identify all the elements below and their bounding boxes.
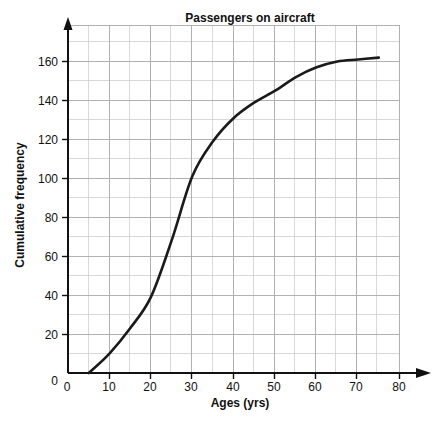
x-axis-label: Ages (yrs) [211,396,270,410]
x-axis-tick-labels: 0 10 20 30 40 50 60 70 80 [64,380,406,394]
chart-container: Passengers on aircraft Ages (yrs) Cumula… [0,0,438,429]
x-tick-label: 30 [184,380,198,394]
y-axis-arrow-icon [64,17,73,30]
grid-minor-lines [68,25,400,373]
y-tick-label: 120 [38,133,58,147]
cumulative-frequency-chart: Passengers on aircraft Ages (yrs) Cumula… [0,0,438,429]
x-tick-label: 20 [143,380,157,394]
y-axis-tick-labels: 0 20 40 60 80 100 120 140 160 [38,55,58,388]
x-tick-label: 60 [308,380,322,394]
grid-major-lines [68,25,400,373]
x-axis-arrow-icon [416,368,431,378]
y-tick-label: 60 [45,250,59,264]
y-axis-label: Cumulative frequency [13,142,27,268]
x-tick-label: 80 [392,380,406,394]
y-tick-label: 140 [38,94,58,108]
x-tick-label: 50 [267,380,281,394]
x-tick-label: 40 [226,380,240,394]
y-tick-label: 80 [45,211,59,225]
y-tick-label: 100 [38,172,58,186]
y-tick-label: 40 [45,289,59,303]
y-tick-label: 160 [38,55,58,69]
y-tick-label: 0 [51,374,58,388]
x-tick-label: 70 [349,380,363,394]
x-tick-label: 0 [64,380,71,394]
x-tick-label: 10 [102,380,116,394]
y-tick-label: 20 [45,328,59,342]
chart-title: Passengers on aircraft [185,11,314,25]
